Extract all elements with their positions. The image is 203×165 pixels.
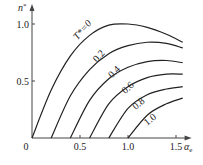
y-axis-label: n* <box>18 2 27 13</box>
series-line <box>32 24 183 138</box>
x-tick-label: 0.5 <box>74 141 87 152</box>
x-tick-label: 1.0 <box>122 141 135 152</box>
chart: 00.51.01.50.51.0αen* T*=00.20.40.60.81.0 <box>0 0 203 165</box>
series-label: 0.4 <box>106 63 123 80</box>
y-axis-label-superscript: * <box>23 2 27 10</box>
series-line <box>109 87 183 138</box>
series-label: 0.8 <box>130 95 147 111</box>
x-tick-label: 1.5 <box>170 141 183 152</box>
x-axis-arrow <box>185 136 192 141</box>
x-axis-label-subscript: e <box>189 146 192 154</box>
series-label: 0.6 <box>119 79 136 96</box>
curves <box>32 24 183 138</box>
y-tick-label: 1.0 <box>17 19 30 30</box>
series-label: 1.0 <box>142 111 159 127</box>
x-axis-label: αe <box>184 141 192 154</box>
x-tick-label: 0 <box>24 141 29 152</box>
series-label: 0.2 <box>90 48 107 65</box>
series-label: T*=0 <box>71 18 94 42</box>
y-axis-arrow <box>30 4 35 11</box>
y-tick-label: 0.5 <box>17 76 30 87</box>
axes: 00.51.01.50.51.0αen* <box>17 2 193 154</box>
